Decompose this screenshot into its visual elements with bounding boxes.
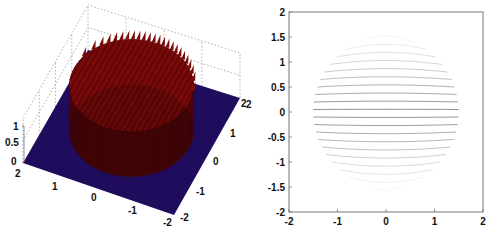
x-tick-label: 2 <box>480 216 486 227</box>
y-tick-label: -2 <box>180 212 189 223</box>
y-tick-label: 1.5 <box>271 32 285 43</box>
y-tick-label: 0.5 <box>271 82 285 93</box>
x-tick-label: -2 <box>285 216 294 227</box>
x-tick-label: 1 <box>52 181 58 192</box>
y-tick-label: 0 <box>213 156 219 167</box>
surface-plot-disc <box>70 30 196 176</box>
y-tick-label: 1 <box>230 128 236 139</box>
y-tick-label: -1.5 <box>268 182 286 193</box>
z-tick-label: 0 <box>11 156 17 167</box>
z-tick-label: 1 <box>13 121 19 132</box>
x-tick-label: 0 <box>383 216 389 227</box>
x-tick-label: 1 <box>432 216 438 227</box>
x-tick-label: -1 <box>333 216 342 227</box>
arc-plot-axes-box <box>289 12 483 212</box>
figure-canvas: 10.50210-1-2210-1-2 2 21.510.50-0.5-1-1.… <box>0 0 494 234</box>
y-tick-label: 0 <box>279 107 285 118</box>
x-tick-label: 0 <box>91 192 97 203</box>
arc-line-plot: 21.510.50-0.5-1-1.5-2-2-1012 <box>268 7 486 227</box>
x-tick-label: 2 <box>15 168 21 179</box>
surface-plot-3d: 10.50210-1-2210-1-2 <box>5 5 247 228</box>
stray-axis-label: 2 <box>246 99 252 110</box>
y-tick-label: 1 <box>279 57 285 68</box>
x-tick-label: -2 <box>163 217 172 228</box>
z-tick-label: 0.5 <box>5 137 19 148</box>
y-tick-label: -1 <box>196 186 205 197</box>
y-tick-label: -0.5 <box>268 132 286 143</box>
y-tick-label: 2 <box>279 7 285 18</box>
y-tick-label: -1 <box>276 157 285 168</box>
x-tick-label: -1 <box>128 205 137 216</box>
